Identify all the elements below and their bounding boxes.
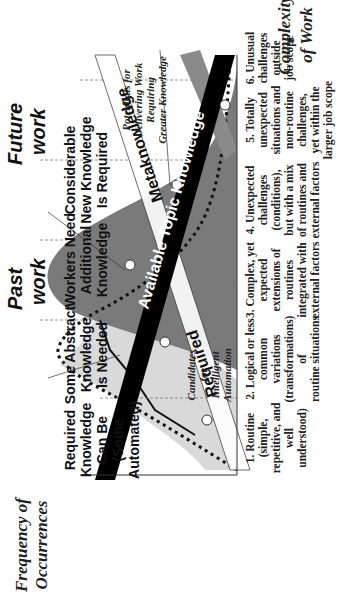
svg-text:challenges: challenges [257,32,270,83]
svg-text:(Some: (Some [110,418,126,461]
past-work-label: Past work [4,257,49,310]
svg-text:Delivering Work: Delivering Work [132,62,144,138]
svg-text:Required: Required [62,410,78,471]
automation-note: Candidates for Intelligent Automation [185,348,233,403]
svg-text:New Knowledge: New Knowledge [78,116,94,224]
svg-text:Future: Future [4,103,26,165]
column-label-2: 2. Logical or less common variations (tr… [244,315,321,402]
svg-text:integrated with: integrated with [296,242,309,318]
svg-text:4. Unexpected: 4. Unexpected [244,165,257,235]
svg-text:work: work [27,107,49,155]
svg-text:common: common [257,337,269,380]
svg-text:Past: Past [4,266,26,310]
svg-text:external factors: external factors [309,161,321,238]
future-work-label: Future work [4,103,49,165]
svg-text:external factors: external factors [309,241,321,318]
svg-text:understood): understood) [296,408,309,468]
svg-text:Can Be: Can Be [94,416,110,464]
svg-text:Some Abstract: Some Abstract [62,306,78,405]
svg-text:situations and: situations and [270,85,282,154]
svg-text:well: well [283,428,295,448]
svg-text:Potentials for: Potentials for [120,69,132,131]
rotated-diagram: Available Topic Knowledge Required Metak… [0,0,362,610]
svg-text:of Work: of Work [297,7,316,63]
svg-text:unexpected: unexpected [257,92,270,148]
svg-text:(simple,: (simple, [257,419,270,458]
potentials-note: Potentials for Delivering Work Requiring… [120,56,168,144]
column-label-1: 1. Routine (simple, repetitive, and well… [244,402,309,473]
svg-text:extensions of: extensions of [270,248,282,311]
heading-additional: Workers Need Additional Knowledge [62,213,110,307]
svg-text:of: of [296,354,308,364]
svg-text:(transformations): (transformations) [283,315,296,402]
svg-text:routines: routines [283,259,295,300]
column-label-5: 5. Totally unexpected situations and non… [244,81,335,159]
svg-text:but with a mix: but with a mix [283,164,295,235]
svg-text:larger job scope: larger job scope [322,81,335,159]
svg-text:Workers Need: Workers Need [62,213,78,307]
svg-text:Knowledge: Knowledge [78,317,94,392]
svg-text:Is Needed: Is Needed [94,322,110,388]
svg-text:(conditions),: (conditions), [270,169,283,230]
svg-text:Candidates: Candidates [185,350,197,401]
svg-text:5. Totally: 5. Totally [244,97,257,143]
svg-text:Automated): Automated) [126,401,142,479]
knowledge-complexity-diagram: Available Topic Knowledge Required Metak… [0,0,362,610]
svg-text:Knowledge: Knowledge [78,402,94,477]
svg-text:routine situations: routine situations [309,316,321,402]
svg-text:Automation: Automation [221,348,233,403]
svg-text:yet within the: yet within the [309,86,322,153]
heading-considerable: Considerable New Knowledge Is Required [62,116,110,224]
svg-text:Additional: Additional [78,226,94,294]
svg-text:outside: outside [270,40,282,75]
svg-text:Is Required: Is Required [94,132,110,208]
svg-text:challenges: challenges [257,174,270,225]
svg-text:Frequency of: Frequency of [12,496,31,593]
svg-text:Occurrences: Occurrences [32,500,51,589]
svg-text:Knowledge: Knowledge [94,222,110,297]
svg-text:Greater Knowledge: Greater Knowledge [156,56,168,144]
svg-text:6. Unusual: 6. Unusual [244,32,256,84]
svg-text:challenges,: challenges, [296,93,309,146]
svg-text:3. Complex, yet: 3. Complex, yet [244,242,257,318]
column-label-3: 3. Complex, yet expected extensions of r… [244,241,321,318]
svg-text:Intelligent: Intelligent [209,351,221,400]
svg-text:non-routine: non-routine [283,91,295,149]
svg-text:Considerable: Considerable [62,125,78,214]
svg-text:repetitive, and: repetitive, and [270,402,283,473]
svg-text:1. Routine: 1. Routine [244,413,256,463]
svg-text:work: work [27,257,49,305]
svg-text:of routines and: of routines and [296,162,308,237]
column-label-4: 4. Unexpected challenges (conditions), b… [244,161,321,238]
svg-text:Requiring: Requiring [144,77,156,124]
svg-text:2. Logical or less: 2. Logical or less [244,318,257,400]
y-axis-title: Frequency of Occurrences [12,496,51,593]
svg-text:expected: expected [257,258,270,301]
svg-text:for: for [197,368,209,382]
svg-text:job scope: job scope [283,35,296,82]
svg-text:variations: variations [270,334,282,384]
column-label-6: 6. Unusual challenges outside job scope [244,32,296,84]
